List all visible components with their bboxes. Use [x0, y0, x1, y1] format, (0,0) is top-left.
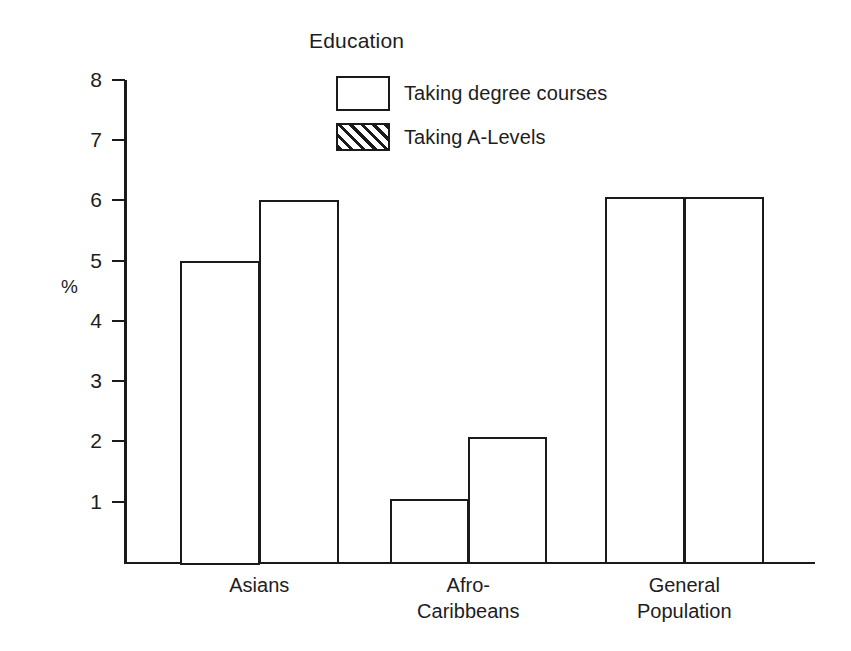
x-axis-label-2: GeneralPopulation: [584, 572, 784, 624]
y-axis-tick-label-3: 3: [72, 369, 102, 393]
y-axis-tick-3: [112, 380, 125, 382]
y-axis-tick-label-2: 2: [72, 429, 102, 453]
y-axis-tick-label-7: 7: [72, 128, 102, 152]
y-axis-tick-6: [112, 199, 125, 201]
x-axis-label-1-line2: Caribbeans: [368, 598, 568, 624]
x-axis-label-2-line2: Population: [584, 598, 784, 624]
chart-title: Education: [309, 29, 404, 53]
bar-chart: Education Taking degree courses Taking A…: [0, 0, 851, 651]
x-axis-label-1-line1: Afro-: [368, 572, 568, 598]
y-axis-tick-label-5: 5: [72, 249, 102, 273]
y-axis-tick-7: [112, 139, 125, 141]
legend-label-1: Taking A-Levels: [404, 126, 546, 149]
y-axis-tick-label-8: 8: [72, 68, 102, 92]
y-axis-tick-8: [112, 79, 125, 81]
y-axis-tick-label-1: 1: [72, 490, 102, 514]
y-axis-tick-label-6: 6: [72, 188, 102, 212]
y-axis-tick-4: [112, 320, 125, 322]
y-axis-tick-1: [112, 501, 125, 503]
y-axis-unit-label: %: [61, 276, 78, 298]
x-axis-label-1: Afro-Caribbeans: [368, 572, 568, 624]
x-axis-label-0-line1: Asians: [159, 572, 359, 598]
bar-1-1: [468, 437, 547, 565]
y-axis-tick-label-4: 4: [72, 309, 102, 333]
bar-1-0: [390, 499, 469, 565]
hatched-box-icon: [336, 123, 390, 151]
bar-0-0: [180, 261, 260, 565]
bar-0-1: [259, 200, 339, 564]
y-axis-tick-2: [112, 440, 125, 442]
legend-item-taking-degree-courses: Taking degree courses: [336, 76, 607, 111]
bar-2-0: [605, 197, 685, 564]
legend-label-0: Taking degree courses: [404, 82, 607, 105]
legend-item-taking-a-levels: Taking A-Levels: [336, 123, 546, 151]
y-axis-line: [124, 80, 127, 564]
y-axis-tick-5: [112, 260, 125, 262]
x-axis-label-2-line1: General: [584, 572, 784, 598]
outline-box-icon: [336, 76, 390, 111]
bar-2-1: [684, 197, 764, 564]
x-axis-label-0: Asians: [159, 572, 359, 598]
